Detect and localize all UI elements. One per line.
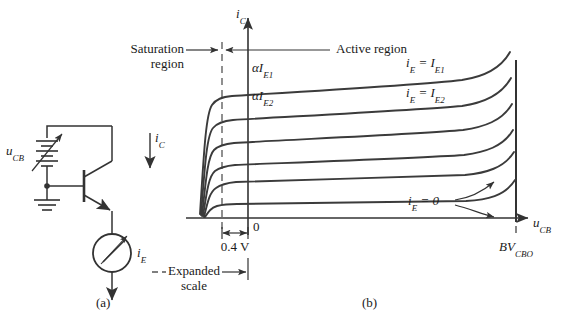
breakdown-voltage-label: BVCBO bbox=[484, 240, 548, 257]
curve-ie1 bbox=[200, 52, 510, 214]
curve-label-ie-equals-ie2: iE = IE2 bbox=[406, 86, 445, 103]
current-source-variable-arrow bbox=[101, 236, 127, 264]
origin-label: 0 bbox=[253, 220, 260, 235]
panel-b-caption: (b) bbox=[362, 296, 377, 311]
expanded-scale-label: Expanded scale bbox=[168, 264, 220, 293]
circuit-schematic bbox=[32, 126, 150, 300]
curve-label-alpha-ie1: αIE1 bbox=[252, 61, 273, 78]
x-axis-label: uCB bbox=[533, 216, 551, 233]
voltage-span-label: 0.4 V bbox=[205, 240, 265, 255]
curve-ie5 bbox=[204, 152, 514, 217]
emitter-current-label: iE bbox=[137, 246, 146, 263]
transistor-emitter-lead bbox=[84, 195, 110, 210]
ground-symbol bbox=[34, 200, 60, 210]
saturation-region-label: Saturation region bbox=[88, 42, 184, 71]
collector-current-label: iC bbox=[155, 131, 165, 148]
source-voltage-label: uCB bbox=[6, 144, 24, 161]
curve-label-ie-zero: iE = 0 bbox=[408, 194, 439, 211]
wire-top-left bbox=[47, 126, 112, 138]
figure-container: uCB iC iE (a) iC uCB 0 Saturation region… bbox=[0, 0, 566, 325]
ie-zero-arrow-lower bbox=[455, 205, 494, 217]
panel-a-caption: (a) bbox=[96, 296, 110, 311]
curve-label-alpha-ie2: αIE2 bbox=[252, 89, 273, 106]
transistor-collector-lead bbox=[84, 161, 112, 177]
y-axis-label: iC bbox=[236, 7, 246, 24]
curve-ie0 bbox=[205, 180, 515, 217]
active-region-label: Active region bbox=[336, 42, 407, 57]
curve-label-ie-equals-ie1: iE = IE1 bbox=[406, 56, 445, 73]
figure-drawing bbox=[0, 0, 566, 325]
